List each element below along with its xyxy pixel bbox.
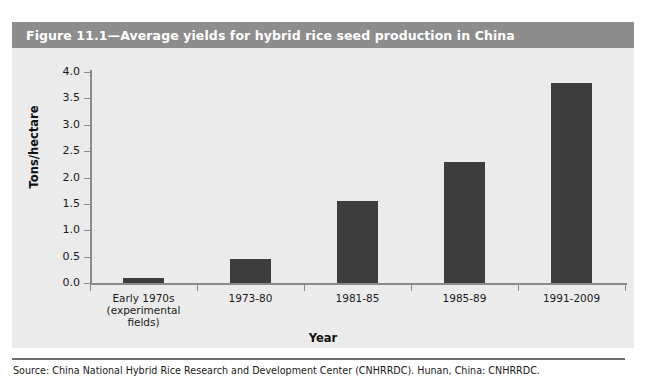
x-axis-line (90, 283, 627, 285)
x-axis-tick (411, 285, 412, 291)
x-axis-category-label: 1981-85 (304, 292, 411, 304)
x-axis-category-label-line: 1985-89 (411, 292, 518, 304)
x-axis-title: Year (12, 331, 634, 345)
x-axis-tick (625, 285, 626, 291)
x-axis-category-label: 1985-89 (411, 292, 518, 304)
x-axis-tick (197, 285, 198, 291)
y-axis-tick-label: 1.5 (18, 197, 80, 210)
x-axis-tick (518, 285, 519, 291)
y-axis-tick-label: 3.0 (18, 118, 80, 131)
bar (551, 83, 592, 283)
x-axis-category-label: Early 1970s(experimentalfields) (90, 292, 197, 328)
y-axis-tick-label: 0.5 (18, 250, 80, 263)
x-axis-category-label-line: Early 1970s (90, 292, 197, 304)
x-axis-category-label-line: 1981-85 (304, 292, 411, 304)
figure-title: Figure 11.1—Average yields for hybrid ri… (12, 28, 515, 43)
x-axis-category-label-line: (experimental (90, 304, 197, 316)
x-axis-category-label: 1991-2009 (518, 292, 625, 304)
x-axis-category-label: 1973-80 (197, 292, 304, 304)
y-axis-tick-label: 2.0 (18, 171, 80, 184)
bar (230, 259, 271, 283)
y-axis-tick-label: 4.0 (18, 65, 80, 78)
figure-title-bar: Figure 11.1—Average yields for hybrid ri… (12, 22, 634, 48)
bar (123, 278, 164, 283)
x-axis-category-label-line: fields) (90, 316, 197, 328)
x-axis-tick (304, 285, 305, 291)
source-note: Source: China National Hybrid Rice Resea… (13, 365, 540, 376)
bar (337, 201, 378, 283)
y-axis-tick-label: 3.5 (18, 91, 80, 104)
y-axis-tick-label: 0.0 (18, 276, 80, 289)
x-axis-category-label-line: 1973-80 (197, 292, 304, 304)
y-axis-tick-label: 1.0 (18, 223, 80, 236)
x-axis-tick (90, 285, 91, 291)
chart-panel: Tons/hectare 0.00.51.01.52.02.53.03.54.0… (12, 48, 634, 348)
figure-container: Figure 11.1—Average yields for hybrid ri… (0, 0, 646, 387)
plot-area (90, 72, 625, 283)
y-axis-tick-label: 2.5 (18, 144, 80, 157)
bar (444, 162, 485, 283)
source-divider (12, 358, 625, 360)
x-axis-category-label-line: 1991-2009 (518, 292, 625, 304)
